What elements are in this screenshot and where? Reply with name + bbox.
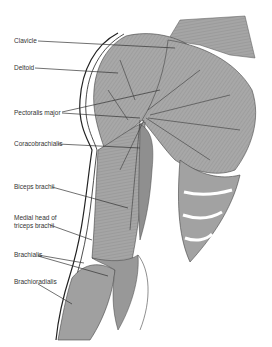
label-clavicle: Clavicle [14,37,37,45]
anatomy-figure: Clavicle Deltoid Pectoralis major Coraco… [0,0,272,347]
biceps-brachii-muscle [92,122,145,263]
label-brachioradialis: Brachioradialis [14,278,57,286]
label-brachialis: Brachialis [14,251,42,259]
label-coracobrachialis: Coracobrachialis [14,140,62,148]
label-biceps-brachii: Biceps brachii [14,183,54,191]
arm-muscle-illustration [0,0,272,347]
label-pectoralis-major: Pectoralis major [14,109,61,117]
label-deltoid: Deltoid [14,64,34,72]
label-medial-head-triceps: Medial head of triceps brachii [14,214,57,230]
rib-area [178,160,240,262]
coracobrachialis-muscle [139,124,153,240]
brachioradialis-muscle [58,265,115,340]
